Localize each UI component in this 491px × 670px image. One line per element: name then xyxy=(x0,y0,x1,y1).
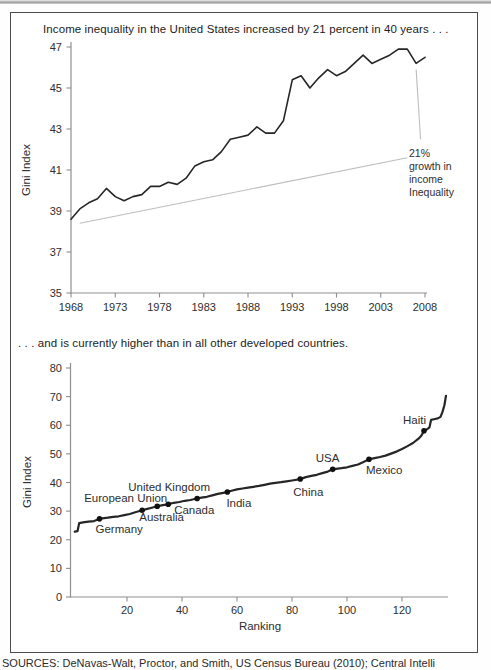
us-gini-series-line xyxy=(71,49,425,219)
country-label-mexico: Mexico xyxy=(366,464,402,476)
chart1-y-tick-label: 43 xyxy=(50,123,62,135)
trend-reference-line xyxy=(80,158,407,224)
chart1-y-tick-label: 39 xyxy=(50,205,62,217)
chart1-x-tick-label: 2003 xyxy=(369,301,393,313)
country-marker-india xyxy=(225,489,231,495)
figure-page: Income inequality in the United States i… xyxy=(0,0,491,670)
chart2-y-tick-label: 0 xyxy=(56,591,62,603)
chart1-x-tick-label: 1978 xyxy=(147,301,171,313)
country-label-china: China xyxy=(293,486,324,498)
chart2-y-tick-label: 30 xyxy=(50,505,62,517)
chart1-x-tick-label: 1993 xyxy=(280,301,304,313)
source-note: SOURCES: DeNavas-Walt, Proctor, and Smit… xyxy=(2,657,491,669)
chart1-x-tick-label: 1968 xyxy=(59,301,83,313)
chart1-y-tick-label: 47 xyxy=(50,41,62,53)
chart1-y-tick-label: 37 xyxy=(50,246,62,258)
chart2-y-axis-label: Gini Index xyxy=(21,456,33,508)
country-marker-canada xyxy=(194,496,200,502)
chart2-x-tick-label: 40 xyxy=(176,604,188,616)
chart2-y-tick-label: 10 xyxy=(50,562,62,574)
country-label-european-union: European Union xyxy=(84,492,167,504)
chart2-x-axis-label: Ranking xyxy=(239,620,281,632)
chart1-x-tick-label: 2008 xyxy=(413,301,437,313)
country-label-haiti: Haiti xyxy=(403,414,426,426)
annotation-callout-line xyxy=(416,70,420,140)
country-marker-china xyxy=(297,476,303,482)
country-label-germany: Germany xyxy=(96,523,144,535)
country-marker-australia xyxy=(154,503,160,509)
chart2-x-tick-label: 80 xyxy=(286,604,298,616)
country-marker-united-kingdom xyxy=(165,501,171,507)
growth-annotation: 21% growth in income Inequality xyxy=(409,147,479,199)
chart2-x-tick-label: 100 xyxy=(338,604,356,616)
chart2-y-tick-label: 40 xyxy=(50,477,62,489)
chart2-y-tick-label: 80 xyxy=(50,362,62,374)
chart1-x-tick-label: 1983 xyxy=(192,301,216,313)
chart1-y-tick-label: 35 xyxy=(50,287,62,299)
chart2-x-tick-label: 60 xyxy=(231,604,243,616)
chart2-y-tick-label: 20 xyxy=(50,534,62,546)
charts-canvas: 3537394143454719681973197819831988199319… xyxy=(0,0,491,670)
country-label-canada: Canada xyxy=(174,504,215,516)
country-label-usa: USA xyxy=(316,452,340,464)
chart1-y-tick-label: 41 xyxy=(50,164,62,176)
chart2-y-tick-label: 50 xyxy=(50,448,62,460)
chart1-y-axis-label: Gini Index xyxy=(20,144,32,196)
chart2-x-tick-label: 120 xyxy=(393,604,411,616)
chart1-y-tick-label: 45 xyxy=(50,82,62,94)
chart1-x-tick-label: 1988 xyxy=(236,301,260,313)
chart1-x-tick-label: 1998 xyxy=(324,301,348,313)
country-marker-germany xyxy=(97,516,103,522)
country-label-india: India xyxy=(226,497,252,509)
chart2-y-tick-label: 70 xyxy=(50,391,62,403)
country-marker-haiti xyxy=(421,428,427,434)
country-marker-mexico xyxy=(366,457,372,463)
chart1-x-tick-label: 1973 xyxy=(103,301,127,313)
chart2-x-tick-label: 20 xyxy=(121,604,133,616)
country-label-united-kingdom: United Kingdom xyxy=(128,481,210,493)
country-marker-usa xyxy=(330,467,336,473)
chart2-y-tick-label: 60 xyxy=(50,419,62,431)
